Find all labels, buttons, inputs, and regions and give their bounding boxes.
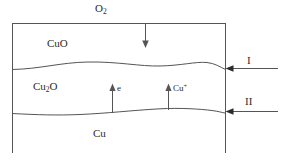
copper-ion-label-superscript: +	[184, 82, 188, 89]
copper-ion-label: Cu+	[173, 83, 187, 93]
layer-label-cu2o-tail: O	[50, 80, 58, 92]
layer-label-cu2o: Cu2O	[33, 81, 58, 93]
layer-label-cuo: CuO	[47, 38, 68, 49]
copper-ion-migration-arrow	[165, 84, 171, 111]
layer-label-cu2o-head: Cu	[33, 80, 46, 92]
electron-migration-arrow	[109, 84, 115, 114]
oxygen-label-subscript: 2	[103, 7, 107, 16]
oxygen-label-text: O	[95, 2, 103, 14]
diagram-canvas: O2 CuO Cu2O Cu e Cu+ I II	[0, 0, 287, 160]
interface-one-label: I	[247, 55, 251, 66]
interface-two-label: II	[245, 96, 252, 107]
electron-label: e	[117, 84, 121, 93]
layer-label-cu: Cu	[93, 128, 106, 139]
oxygen-inflow-arrow	[142, 23, 149, 48]
interface-one-boundary	[12, 62, 226, 70]
interface-two-boundary	[12, 108, 226, 115]
oxygen-label: O2	[95, 3, 107, 15]
copper-ion-label-text: Cu	[173, 83, 184, 93]
interface-one-pointer-arrow	[226, 65, 279, 72]
interface-two-pointer-arrow	[226, 108, 279, 115]
